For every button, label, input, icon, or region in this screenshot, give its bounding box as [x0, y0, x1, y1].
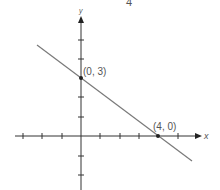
y-axis-label: y	[78, 7, 83, 15]
point-4-0	[156, 134, 160, 138]
x-axis-label: x	[203, 131, 209, 141]
y-axis: y	[78, 7, 84, 190]
x-axis-arrow-icon	[195, 133, 202, 139]
point-label-0-3: (0, 3)	[83, 66, 106, 77]
x-axis: x	[15, 131, 209, 141]
y-axis-arrow-icon	[78, 16, 84, 23]
coordinate-plane: x y (0, 3) (4, 0)	[0, 0, 220, 190]
point-label-4-0: (4, 0)	[153, 121, 176, 132]
graph-line	[37, 45, 192, 161]
